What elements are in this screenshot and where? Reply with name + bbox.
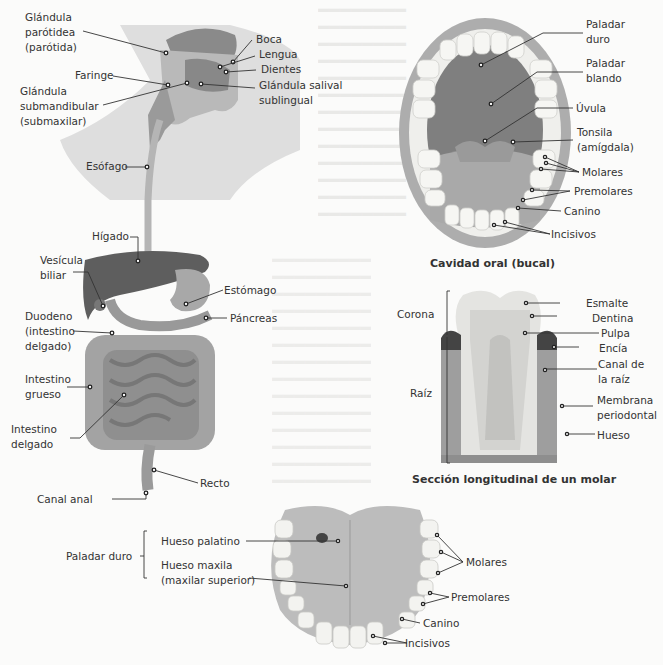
label-line: (parótida) <box>25 40 77 55</box>
label-line: Canal de <box>598 357 644 372</box>
label-pharynx: Faringe <box>75 68 114 83</box>
label-incisors: Incisivos <box>551 227 596 242</box>
label-root: Raíz <box>410 386 432 401</box>
label-line: submandibular <box>20 99 99 114</box>
label-liver: Hígado <box>92 229 129 244</box>
label-large-intestine: Intestino grueso <box>25 372 71 402</box>
label-crown: Corona <box>397 307 434 322</box>
label-line: Paladar <box>586 56 625 71</box>
label-duodenum: Duodeno (intestino delgado) <box>25 309 75 354</box>
label-palate-molars: Molares <box>466 555 507 570</box>
label-line: (amígdala) <box>577 140 634 155</box>
label-line: (intestino <box>25 324 75 339</box>
label-line: Intestino <box>25 372 71 387</box>
label-line: Membrana <box>597 393 657 408</box>
label-hard-palate: Paladar duro <box>586 17 625 47</box>
label-line: blando <box>586 71 625 86</box>
label-palate-premolars: Premolares <box>451 590 510 605</box>
label-line: duro <box>586 32 625 47</box>
label-line: sublingual <box>259 93 342 108</box>
label-line: Vesícula <box>40 253 83 268</box>
label-line: biliar <box>40 268 83 283</box>
label-sublingual-gland: Glándula salival sublingual <box>259 78 342 108</box>
label-line: periodontal <box>597 408 657 423</box>
label-tongue: Lengua <box>259 47 298 62</box>
label-rectum: Recto <box>200 476 230 491</box>
label-line: grueso <box>25 387 71 402</box>
label-root-canal: Canal de la raíz <box>598 357 644 387</box>
label-esophagus: Esófago <box>86 159 128 174</box>
label-tonsil: Tonsila (amígdala) <box>577 125 634 155</box>
label-mouth: Boca <box>256 32 282 47</box>
label-line: Intestino <box>11 422 57 437</box>
molar-section-illustration <box>441 291 557 463</box>
label-premolars: Premolares <box>574 184 633 199</box>
label-line: delgado) <box>25 339 75 354</box>
label-line: parótidea <box>25 25 77 40</box>
label-periodontal-membrane: Membrana periodontal <box>597 393 657 423</box>
label-line: Hueso maxila <box>161 558 255 573</box>
label-gallbladder: Vesícula biliar <box>40 253 83 283</box>
label-line: la raíz <box>598 372 644 387</box>
label-line: delgado <box>11 437 57 452</box>
label-teeth: Dientes <box>261 62 301 77</box>
label-line: Glándula <box>25 10 77 25</box>
label-molars: Molares <box>582 165 623 180</box>
label-submandibular-gland: Glándula submandibular (submaxilar) <box>20 84 99 129</box>
label-gum: Encía <box>599 341 627 356</box>
label-palate-hard-palate: Paladar duro <box>66 549 132 564</box>
label-dentin: Dentina <box>592 311 633 326</box>
label-canine: Canino <box>564 204 600 219</box>
label-line: Paladar <box>586 17 625 32</box>
oral-cavity-illustration <box>399 18 571 248</box>
label-line: (submaxilar) <box>20 114 99 129</box>
caption-molar-section: Sección longitudinal de un molar <box>412 473 616 486</box>
label-enamel: Esmalte <box>586 296 628 311</box>
label-line: Tonsila <box>577 125 634 140</box>
label-maxilla: Hueso maxila (maxilar superior) <box>161 558 255 588</box>
label-soft-palate: Paladar blando <box>586 56 625 86</box>
label-parotid-gland: Glándula parótidea (parótida) <box>25 10 77 55</box>
label-pancreas: Páncreas <box>230 311 277 326</box>
label-stomach: Estómago <box>224 283 276 298</box>
abdominal-organs <box>83 251 215 490</box>
label-palate-incisors: Incisivos <box>405 636 450 651</box>
upper-palate-illustration <box>271 506 440 648</box>
label-anal-canal: Canal anal <box>37 492 93 507</box>
label-line: Glándula <box>20 84 99 99</box>
label-line: Glándula salival <box>259 78 342 93</box>
label-bone: Hueso <box>597 428 630 443</box>
label-line: (maxilar superior) <box>161 573 255 588</box>
label-palatine-bone: Hueso palatino <box>161 534 240 549</box>
label-small-intestine: Intestino delgado <box>11 422 57 452</box>
label-palate-canine: Canino <box>423 616 459 631</box>
label-uvula: Úvula <box>576 101 606 116</box>
label-pulp: Pulpa <box>601 326 630 341</box>
label-line: Duodeno <box>25 309 75 324</box>
caption-oral-cavity: Cavidad oral (bucal) <box>430 257 555 270</box>
